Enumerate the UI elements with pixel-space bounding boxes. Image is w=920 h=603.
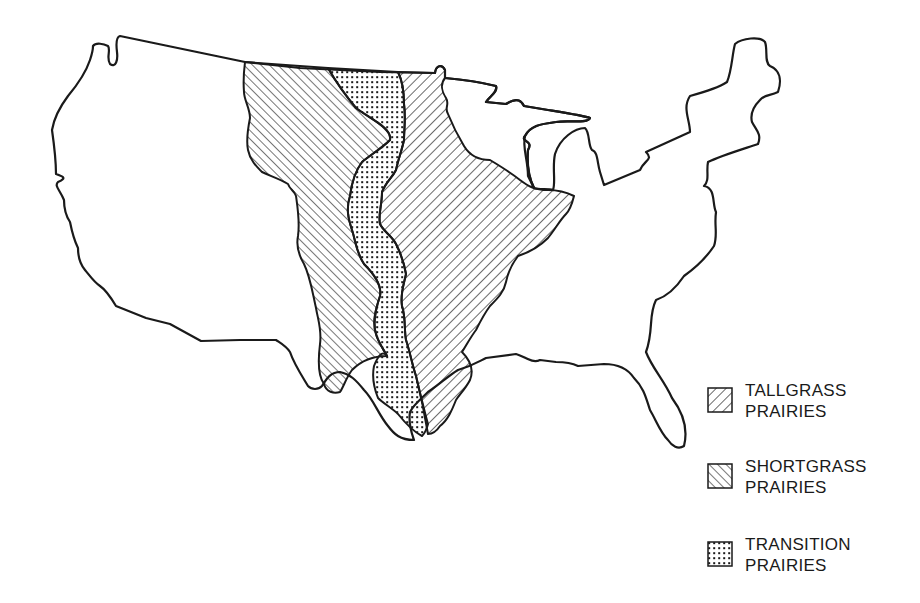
legend-label-tallgrass-line2: PRAIRIES [745, 401, 847, 422]
legend-item-transition: TRANSITION PRAIRIES [707, 534, 851, 576]
legend-label-transition-line2: PRAIRIES [745, 555, 851, 576]
legend-item-shortgrass: SHORTGRASS PRAIRIES [707, 456, 867, 498]
legend-label-tallgrass-line1: TALLGRASS [745, 380, 847, 401]
transition-pattern-icon [707, 541, 733, 567]
tallgrass-pattern-icon [707, 387, 733, 413]
shortgrass-pattern-icon [707, 463, 733, 489]
legend-label-transition-line1: TRANSITION [745, 534, 851, 555]
us-prairie-map [0, 0, 920, 603]
legend-label-shortgrass-line2: PRAIRIES [745, 477, 867, 498]
legend-item-tallgrass: TALLGRASS PRAIRIES [707, 380, 847, 422]
legend-label-shortgrass-line1: SHORTGRASS [745, 456, 867, 477]
